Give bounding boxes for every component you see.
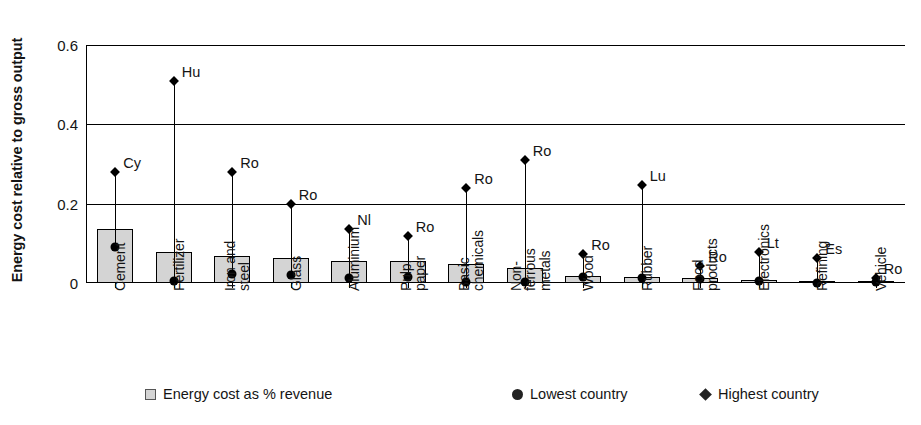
y-tick-label: 0.2 [36, 195, 78, 212]
square-swatch-icon [145, 389, 156, 400]
highest-country-marker [520, 155, 530, 165]
country-code-label: Hu [182, 64, 201, 80]
y-tick-label: 0 [36, 275, 78, 292]
category-label-line: Cement [113, 243, 127, 291]
energy-cost-chart: Energy cost relative to gross output 00.… [0, 0, 921, 425]
category-label-line: metals [538, 248, 552, 291]
highest-country-marker [461, 183, 471, 193]
x-axis-category-label: Wood [581, 255, 595, 291]
x-axis-category-label: Glass [289, 256, 303, 291]
country-code-label: Ro [533, 143, 552, 159]
x-axis-category-label: Refining [815, 241, 829, 291]
gridline [86, 204, 905, 205]
gridline [86, 45, 905, 46]
x-axis-line [86, 282, 905, 283]
highest-country-marker [227, 167, 237, 177]
category-label-line: products [706, 239, 720, 292]
country-code-label: Ro [240, 155, 259, 171]
x-axis-category-label: Cement [113, 243, 127, 291]
legend-item[interactable]: Energy cost as % revenue [145, 386, 332, 402]
legend-item[interactable]: Highest country [700, 386, 819, 402]
category-label-line: Glass [289, 256, 303, 291]
x-axis-category-label: Foodproducts [691, 239, 720, 292]
y-axis-line [86, 45, 87, 283]
country-code-label: Ro [474, 171, 493, 187]
country-code-label: Ro [416, 219, 435, 235]
category-label-line: Rubber [640, 246, 654, 291]
legend-label: Highest country [718, 386, 819, 402]
category-label-line: Pulp, [399, 256, 413, 291]
category-label-line: Fertilizer [172, 239, 186, 291]
highest-country-marker [169, 76, 179, 86]
category-label-line: Electronics [757, 224, 771, 291]
x-axis-category-label: Pulp,paper [399, 256, 428, 291]
y-axis-tick-labels: 00.20.40.6 [0, 0, 78, 425]
category-label-line: Refining [815, 241, 829, 291]
x-axis-category-label: Rubber [640, 246, 654, 291]
category-label-line: Wood [581, 255, 595, 291]
x-axis-category-label: Iron andsteel [223, 241, 252, 291]
highest-country-marker [286, 199, 296, 209]
country-code-label: Lu [650, 168, 666, 184]
x-axis-category-label: Aluminium [347, 227, 361, 291]
country-code-label: Cy [123, 155, 141, 171]
legend-item[interactable]: Lowest country [512, 386, 628, 402]
highest-country-marker [403, 231, 413, 241]
y-tick-label: 0.4 [36, 116, 78, 133]
category-label-line: paper [413, 256, 427, 291]
category-label-line: Aluminium [347, 227, 361, 291]
category-label-line: ferrous [523, 248, 537, 291]
x-axis-category-label: Fertilizer [172, 239, 186, 291]
gridline [86, 124, 905, 125]
category-label-line: Vehicle [874, 247, 888, 291]
legend-label: Lowest country [530, 386, 628, 402]
x-axis-category-label: Vehicle [874, 247, 888, 291]
x-axis-category-label: Basicchemicals [457, 230, 486, 291]
range-stem [115, 172, 116, 248]
plot-area: CyHuRoRoNlRoRoRoRoLuRoLtEsRo [86, 45, 905, 283]
country-code-label: Ro [591, 237, 610, 253]
x-axis-category-label: Electronics [757, 224, 771, 291]
category-label-line: Non- [509, 248, 523, 291]
circle-swatch-icon [512, 389, 523, 400]
diamond-swatch-icon [699, 388, 712, 401]
x-axis-category-label: Non-ferrousmetals [509, 248, 552, 291]
legend-label: Energy cost as % revenue [163, 386, 332, 402]
country-code-label: Ro [299, 187, 318, 203]
category-label-line: chemicals [472, 230, 486, 291]
highest-country-marker [637, 180, 647, 190]
y-tick-label: 0.6 [36, 37, 78, 54]
chart-legend: Energy cost as % revenueLowest countryHi… [0, 386, 921, 412]
category-label-line: steel [238, 241, 252, 291]
highest-country-marker [110, 167, 120, 177]
